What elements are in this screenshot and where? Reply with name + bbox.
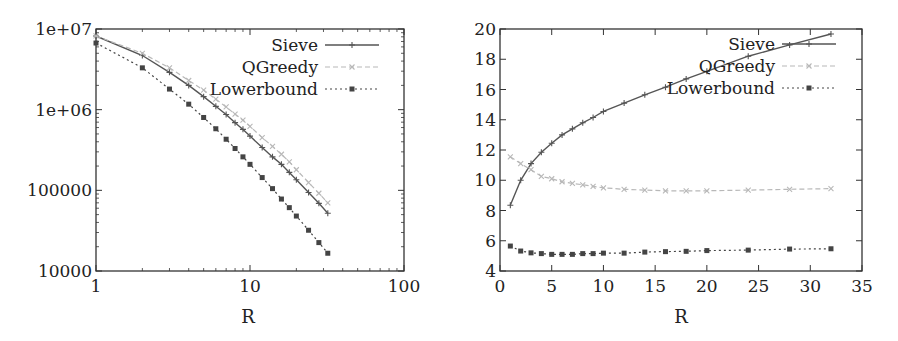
x-tick-label: 1 xyxy=(91,276,102,296)
y-tick-label: 6 xyxy=(485,231,496,251)
legend-entry-sieve: Sieve xyxy=(271,35,379,55)
x-tick-label: 100 xyxy=(388,276,420,296)
x-tick-label: 10 xyxy=(239,276,261,296)
y-tick-label: 10000 xyxy=(38,261,92,281)
legend-label: QGreedy xyxy=(242,57,319,77)
y-tick-label: 10 xyxy=(474,170,496,190)
x-tick-label: 30 xyxy=(799,276,821,296)
y-tick-label: 4 xyxy=(485,261,496,281)
x-tick-label: 0 xyxy=(495,276,506,296)
x-axis-title: R xyxy=(674,306,688,327)
legend-entry-qgreedy: QGreedy xyxy=(242,57,379,77)
y-tick-label: 12 xyxy=(474,140,496,160)
legend-label: QGreedy xyxy=(699,56,776,76)
y-tick-label: 1e+06 xyxy=(35,100,92,120)
figure-canvas: 110100100001000001e+061e+07RSieveQGreedy… xyxy=(0,0,898,341)
x-axis-title: R xyxy=(241,306,255,327)
y-tick-label: 18 xyxy=(474,49,496,69)
legend-label: Sieve xyxy=(728,34,775,54)
x-tick-label: 5 xyxy=(546,276,557,296)
legend-entry-lowerbound: Lowerbound xyxy=(667,78,836,98)
chart-left-log-log: 110100100001000001e+061e+07RSieveQGreedy… xyxy=(27,19,420,327)
x-tick-label: 15 xyxy=(644,276,666,296)
legend-label: Sieve xyxy=(271,35,318,55)
legend-label: Lowerbound xyxy=(210,79,318,99)
legend-entry-qgreedy: QGreedy xyxy=(699,56,836,76)
series-qgreedy xyxy=(508,154,834,193)
y-tick-label: 20 xyxy=(474,19,496,39)
chart-right-linear: 05101520253035468101214161820RSieveQGree… xyxy=(474,19,872,327)
y-tick-label: 1e+07 xyxy=(35,19,92,39)
series-lowerbound xyxy=(508,244,834,257)
axis-ticks: 05101520253035468101214161820 xyxy=(474,19,872,296)
series-sieve xyxy=(507,31,834,208)
legend-label: Lowerbound xyxy=(667,78,775,98)
y-tick-label: 8 xyxy=(485,201,496,221)
x-tick-label: 35 xyxy=(851,276,873,296)
axis-ticks: 110100100001000001e+061e+07 xyxy=(27,19,420,296)
x-tick-label: 20 xyxy=(696,276,718,296)
x-tick-label: 25 xyxy=(748,276,770,296)
x-tick-label: 10 xyxy=(593,276,615,296)
y-tick-label: 100000 xyxy=(27,180,92,200)
legend-entry-lowerbound: Lowerbound xyxy=(210,79,379,99)
y-tick-label: 16 xyxy=(474,80,496,100)
y-tick-label: 14 xyxy=(474,110,496,130)
